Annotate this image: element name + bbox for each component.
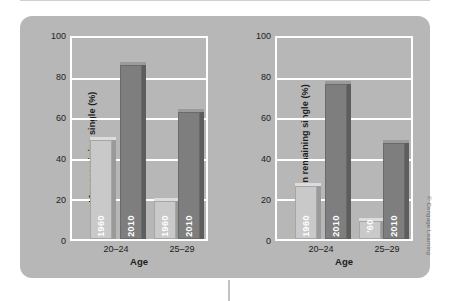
y-tick-100: 100 xyxy=(51,31,66,41)
bar-front-face xyxy=(120,65,142,239)
y-axis-ticks-men: 100 80 60 40 20 0 xyxy=(42,36,68,241)
x-cat-2024: 20–24 xyxy=(103,244,128,254)
y-tick-20: 20 xyxy=(56,195,66,205)
y-tick-100: 100 xyxy=(256,31,271,41)
x-cat-2529: 25–29 xyxy=(169,244,194,254)
bar-year-label: '60 xyxy=(359,215,381,233)
page-top-rule xyxy=(20,0,430,1)
y-axis-ticks-women: 100 80 60 40 20 0 xyxy=(247,36,273,241)
bar-year-label: 2010 xyxy=(325,215,347,233)
page-top-margin xyxy=(0,0,458,16)
plot-area-men: 1960 2010 1960 2010 xyxy=(70,36,208,241)
bar-women-2024-2010[interactable]: 2010 xyxy=(325,81,351,239)
bar-men-2024-1960[interactable]: 1960 xyxy=(90,137,116,240)
x-cat-2024: 20–24 xyxy=(308,244,333,254)
bar-men-2024-2010[interactable]: 2010 xyxy=(120,62,146,239)
bar-women-2529-2010[interactable]: 2010 xyxy=(383,140,409,239)
chart-men: Men remaining single (%) 100 80 60 40 20… xyxy=(20,16,225,278)
y-tick-80: 80 xyxy=(261,72,271,82)
bar-side-face xyxy=(317,186,321,239)
gridline-80 xyxy=(277,78,411,80)
x-axis-title-women: Age xyxy=(275,256,413,267)
bar-year-label: 1960 xyxy=(154,215,176,233)
figure-panel: Men remaining single (%) 100 80 60 40 20… xyxy=(20,16,430,278)
bar-side-face xyxy=(142,65,146,239)
y-tick-40: 40 xyxy=(56,154,66,164)
bar-men-2529-2010[interactable]: 2010 xyxy=(178,109,204,239)
copyright-credit: © Cengage Learning xyxy=(426,196,432,286)
x-cat-2529: 25–29 xyxy=(374,244,399,254)
y-tick-0: 0 xyxy=(61,236,66,246)
y-tick-40: 40 xyxy=(261,154,271,164)
bar-year-label: 2010 xyxy=(383,215,405,233)
bar-women-2024-1960[interactable]: 1960 xyxy=(295,183,321,239)
y-tick-80: 80 xyxy=(56,72,66,82)
plot-area-women: 1960 2010 '60 2010 xyxy=(275,36,413,241)
bar-women-2529-1960[interactable]: '60 xyxy=(359,218,385,239)
bar-year-label: 1960 xyxy=(90,215,112,233)
y-tick-60: 60 xyxy=(261,113,271,123)
bar-side-face xyxy=(347,84,351,239)
y-tick-60: 60 xyxy=(56,113,66,123)
column-divider xyxy=(228,280,230,301)
x-axis-title-men: Age xyxy=(70,256,208,267)
chart-women: Women remaining single (%) 100 80 60 40 … xyxy=(225,16,430,278)
y-tick-20: 20 xyxy=(261,195,271,205)
bar-side-face xyxy=(112,140,116,240)
bar-year-label: 2010 xyxy=(120,215,142,233)
bar-year-label: 1960 xyxy=(295,215,317,233)
bar-side-face xyxy=(200,112,204,239)
bar-men-2529-1960[interactable]: 1960 xyxy=(154,198,180,239)
bar-year-label: 2010 xyxy=(178,215,200,233)
y-tick-0: 0 xyxy=(266,236,271,246)
bar-side-face xyxy=(405,143,409,239)
